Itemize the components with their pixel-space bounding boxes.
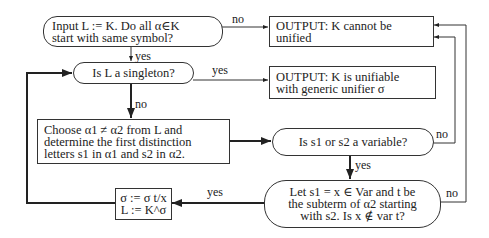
node-variable-decision: Is s1 or s2 a variable? — [272, 128, 434, 156]
node-singleton-decision: Is L a singleton? — [73, 62, 194, 84]
node-output-cannot-unify: OUTPUT: K cannot be unified — [269, 16, 434, 47]
label-occurs-no: no — [446, 186, 458, 201]
node-input-decision: Input L := K. Do all α∈K start with same… — [43, 16, 223, 47]
node-update-substitution: σ := σ t/x L := K^σ — [115, 188, 172, 220]
node-output-unifiable: OUTPUT: K is unifiable with generic unif… — [269, 66, 436, 99]
label-variable-yes: yes — [355, 158, 371, 173]
node-occurs-check-decision: Let s1 = x ∈ Var and t be the subterm of… — [264, 180, 441, 228]
node-choose-line1: Choose α1 ≠ α2 from L and — [44, 124, 229, 136]
label-input-yes: yes — [135, 49, 151, 64]
node-input-line2: start with same symbol? — [52, 32, 222, 44]
node-singleton-line1: Is L a singleton? — [92, 67, 175, 79]
label-input-no: no — [232, 12, 244, 27]
node-update-line2: L := K^σ — [121, 204, 167, 216]
node-choose-line3: letters s1 in α1 and s2 in α2. — [44, 148, 229, 160]
label-singleton-yes: yes — [212, 63, 228, 78]
label-occurs-yes: yes — [207, 185, 223, 200]
node-input-line1: Input L := K. Do all α∈K — [52, 20, 222, 32]
edge-occurs-no — [434, 25, 466, 202]
node-choose-process: Choose α1 ≠ α2 from L and determine the … — [37, 119, 230, 164]
node-choose-line2: determine the first distinction — [44, 136, 229, 148]
node-occurs-line3: with s2. Is x ∉ var t? — [300, 210, 405, 222]
label-singleton-no: no — [135, 97, 147, 112]
node-cannot-unify-line1: OUTPUT: K cannot be — [276, 20, 433, 32]
node-cannot-unify-line2: unified — [276, 32, 433, 44]
label-variable-no: no — [436, 127, 448, 142]
node-unifiable-line1: OUTPUT: K is unifiable — [276, 71, 435, 83]
node-unifiable-line2: with generic unifier σ — [276, 83, 435, 95]
node-variable-line1: Is s1 or s2 a variable? — [299, 136, 408, 148]
